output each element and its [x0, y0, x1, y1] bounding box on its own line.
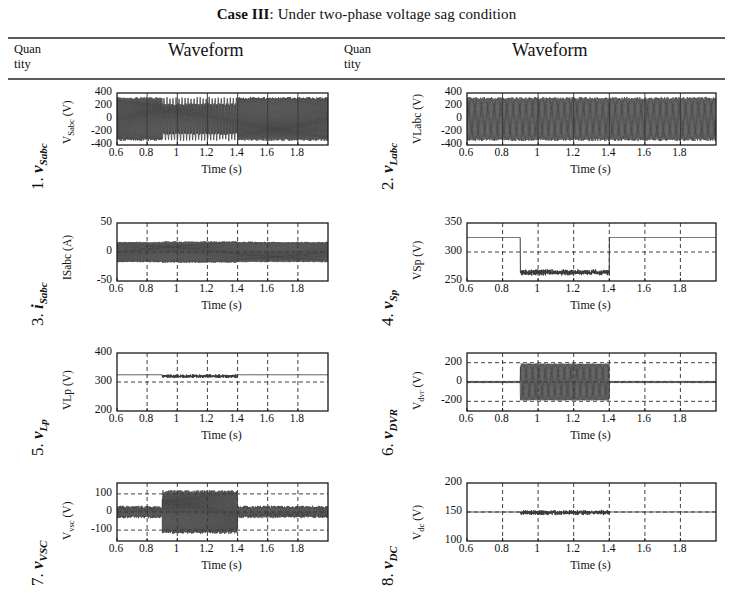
waveform-plot-vdc: [466, 482, 715, 540]
x-tick-label: 1: [160, 412, 192, 425]
row-subscript: Sabc: [37, 282, 49, 304]
table-header-rule: [8, 78, 725, 80]
x-tick-label: 0.6: [100, 146, 132, 159]
y-axis-label: Vvsc (V): [61, 502, 76, 541]
x-tick-label: 1.6: [251, 146, 283, 159]
x-tick-label: 1: [521, 282, 553, 295]
x-tick-label: 0.6: [100, 412, 132, 425]
y-tick-label: 0: [76, 504, 112, 517]
row-index: 1.: [28, 173, 47, 190]
y-tick-label: 400: [76, 345, 112, 358]
x-tick-label: 1.2: [557, 146, 589, 159]
row-label-8: 8. vDC: [378, 546, 399, 586]
x-tick-label: 0.8: [130, 542, 162, 555]
x-tick-label: 1.2: [557, 542, 589, 555]
x-axis-label: Time (s): [182, 298, 262, 313]
y-tick-label: 0: [76, 244, 112, 257]
row-index: 8.: [378, 569, 397, 586]
x-tick-label: 1: [160, 542, 192, 555]
x-tick-label: 0.8: [130, 412, 162, 425]
row-subscript: DC: [387, 546, 399, 561]
x-tick-label: 1: [160, 146, 192, 159]
y-axis-label: Vdc (V): [411, 505, 426, 540]
header-quantity-left-line1: Quan: [14, 42, 41, 56]
caption-text: : Under two-phase voltage sag condition: [270, 6, 517, 22]
row-index: 4.: [378, 309, 397, 326]
x-tick-label: 1.6: [628, 146, 660, 159]
y-tick-label: -200: [426, 393, 462, 406]
row-index: 5.: [28, 439, 47, 456]
y-tick-label: 300: [426, 244, 462, 257]
row-label-1: 1. vSabc: [28, 143, 49, 190]
y-axis-label: VLabc (V): [411, 94, 423, 144]
x-tick-label: 1.8: [281, 542, 313, 555]
y-tick-label: -200: [426, 124, 462, 137]
row-symbol: v: [28, 165, 47, 173]
y-tick-label: 0: [426, 374, 462, 387]
y-axis-label: VSabc (V): [61, 100, 76, 144]
x-tick-label: 1: [521, 146, 553, 159]
row-symbol: v: [378, 431, 397, 439]
waveform-plot-isabc: [116, 222, 327, 280]
x-tick-label: 1.2: [190, 146, 222, 159]
y-axis-label: ISabc (A): [61, 235, 73, 280]
x-tick-label: 0.6: [450, 146, 482, 159]
waveform-plot-vsabc: [116, 92, 327, 144]
x-tick-label: 1.8: [663, 412, 695, 425]
plot-svg: [116, 222, 329, 282]
y-tick-label: 100: [76, 486, 112, 499]
x-tick-label: 1: [521, 542, 553, 555]
x-axis-label: Time (s): [551, 558, 631, 573]
row-label-5: 5. vLp: [28, 419, 49, 456]
row-index: 3.: [28, 309, 47, 326]
waveform-plot-vlabc: [466, 92, 715, 144]
plot-svg: [466, 352, 717, 412]
y-tick-label: 0: [426, 111, 462, 124]
row-subscript: DVR: [387, 409, 399, 432]
y-tick-label: -200: [76, 124, 112, 137]
caption-case-label: Case III: [217, 6, 270, 22]
y-axis-label: VLp (V): [61, 370, 73, 410]
x-tick-label: 1.4: [221, 282, 253, 295]
x-tick-label: 1.8: [281, 146, 313, 159]
row-subscript: Sabc: [37, 143, 49, 165]
y-tick-label: 0: [76, 111, 112, 124]
row-index: 6.: [378, 439, 397, 456]
x-tick-label: 1.2: [190, 282, 222, 295]
x-tick-label: 1.2: [557, 282, 589, 295]
waveform-plot-vlp: [116, 352, 327, 410]
header-quantity-right-line2: tity: [344, 57, 361, 71]
row-symbol: v: [378, 165, 397, 173]
row-subscript: Sp: [387, 290, 399, 302]
x-tick-label: 1.4: [221, 146, 253, 159]
y-axis-label: VSp (V): [411, 241, 423, 280]
waveform-plot-vvsc: [116, 482, 327, 540]
x-tick-label: 1.2: [557, 412, 589, 425]
waveform-plot-vdvr: [466, 352, 715, 410]
y-tick-label: 400: [76, 85, 112, 98]
header-waveform-right: Waveform: [512, 44, 588, 57]
row-label-4: 4. vSp: [378, 290, 399, 326]
row-subscript: Lp: [37, 419, 49, 431]
row-symbol: v: [378, 301, 397, 309]
row-symbol: v: [28, 431, 47, 439]
x-tick-label: 1.6: [628, 282, 660, 295]
x-axis-label: Time (s): [182, 428, 262, 443]
x-tick-label: 1.6: [251, 542, 283, 555]
x-tick-label: 1.8: [281, 412, 313, 425]
x-tick-label: 1.2: [190, 412, 222, 425]
row-label-7: 7. vVSC: [28, 541, 49, 586]
x-tick-label: 1.6: [628, 412, 660, 425]
plot-svg: [116, 352, 329, 412]
x-tick-label: 1.8: [663, 146, 695, 159]
x-axis-label: Time (s): [551, 298, 631, 313]
x-tick-label: 1.4: [592, 146, 624, 159]
x-tick-label: 0.6: [100, 282, 132, 295]
x-tick-label: 0.8: [130, 146, 162, 159]
x-tick-label: 1: [160, 282, 192, 295]
x-tick-label: 0.6: [100, 542, 132, 555]
plot-svg: [466, 482, 717, 542]
row-label-3: 3. iSabc: [28, 282, 49, 326]
plot-svg: [116, 482, 329, 542]
row-symbol: v: [378, 561, 397, 569]
